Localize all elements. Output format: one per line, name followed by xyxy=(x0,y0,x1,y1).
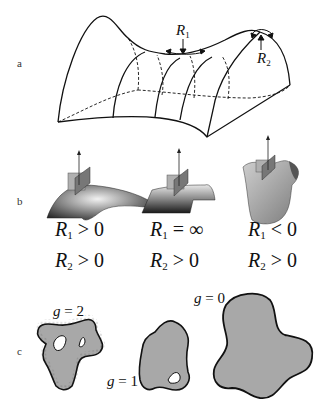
relation: > 0 xyxy=(266,249,297,271)
value: = 2 xyxy=(61,303,84,319)
symbol: R xyxy=(248,249,260,271)
case-3-r2: R2 > 0 xyxy=(248,249,297,272)
symbol: R xyxy=(150,218,162,240)
symbol: R xyxy=(55,249,67,271)
genus-label-1: g = 1 xyxy=(107,373,138,390)
symbol: R xyxy=(248,218,260,240)
r2-symbol: R xyxy=(257,50,266,66)
genus-1-shape xyxy=(139,321,189,390)
case-1-r1: R1 > 0 xyxy=(55,218,104,241)
cylinder-surface-diagram xyxy=(142,148,215,213)
case-2-r1: R1 = ∞ xyxy=(150,218,203,241)
saddle-surface-diagram xyxy=(243,135,299,224)
symbol: g xyxy=(53,303,61,319)
figure-drawing xyxy=(0,0,330,410)
annotation-r2: R2 xyxy=(257,50,271,68)
case-1-r2: R2 > 0 xyxy=(55,249,104,272)
value: = 0 xyxy=(202,290,225,306)
value: = 1 xyxy=(115,373,138,389)
r1-arrow-icon xyxy=(166,39,205,54)
genus-label-2: g = 2 xyxy=(53,303,84,320)
relation: > 0 xyxy=(73,249,104,271)
relation: > 0 xyxy=(73,218,104,240)
genus-2-shape xyxy=(37,317,102,389)
symbol: R xyxy=(55,218,67,240)
case-3-r1: R1 < 0 xyxy=(248,218,297,241)
symbol: R xyxy=(150,249,162,271)
dome-surface-diagram xyxy=(47,150,148,220)
symbol: g xyxy=(194,290,202,306)
annotation-r1: R1 xyxy=(176,22,190,40)
genus-label-0: g = 0 xyxy=(194,290,225,307)
r1-subscript: 1 xyxy=(185,30,190,40)
symbol: g xyxy=(107,373,115,389)
r2-subscript: 2 xyxy=(266,58,271,68)
genus-0-shape xyxy=(214,294,313,399)
relation: > 0 xyxy=(168,249,199,271)
case-2-r2: R2 > 0 xyxy=(150,249,199,272)
saddle-hidden-lines xyxy=(58,38,290,122)
r1-symbol: R xyxy=(176,22,185,38)
relation: = ∞ xyxy=(168,218,204,240)
relation: < 0 xyxy=(266,218,297,240)
